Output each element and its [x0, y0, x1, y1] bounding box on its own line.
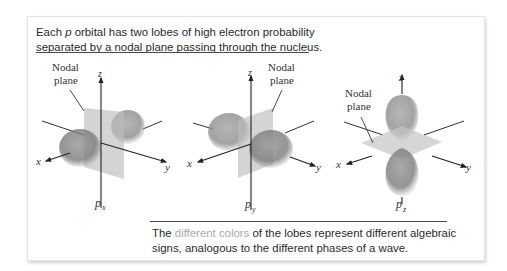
y-axis-back — [285, 121, 314, 133]
z-axis-label: z — [97, 68, 102, 79]
x-axis — [347, 156, 372, 164]
caption-text: of the lobes represent different algebra… — [249, 227, 456, 239]
orbital-label-main: p — [244, 197, 251, 211]
nodal-plane-leader — [361, 117, 373, 143]
bottom-caption: The different colors of the lobes repres… — [152, 226, 456, 255]
x-axis-back — [344, 122, 383, 135]
bottom-caption-line1: The different colors of the lobes repres… — [152, 226, 456, 241]
y-axis-label: y — [315, 161, 321, 173]
nodal-label-l2: plane — [54, 74, 78, 86]
nodal-label-l2: plane — [347, 100, 371, 112]
lobe-front — [59, 129, 101, 167]
px-orbital: Nodal plane z x y p x — [35, 61, 170, 212]
y-axis — [290, 157, 315, 166]
y-axis-back — [143, 121, 162, 129]
caption-text: The — [152, 227, 175, 239]
x-axis-label: x — [35, 155, 41, 167]
orbital-label-sub: z — [402, 205, 407, 214]
orbital-label-sub: y — [251, 205, 256, 214]
orbital-label-main: p — [395, 197, 402, 211]
py-orbital: Nodal plane z x y p y — [186, 61, 321, 214]
x-axis-label: x — [335, 158, 341, 170]
z-axis-label: z — [398, 72, 403, 83]
y-axis-back — [424, 121, 464, 135]
y-axis — [432, 156, 466, 167]
orbital-label-main: p — [94, 196, 101, 210]
nodal-label-l1: Nodal — [345, 87, 372, 99]
bottom-caption-line2: signs, analogous to the different phases… — [152, 241, 456, 256]
pz-orbital: Nodal plane z x y p z — [335, 72, 471, 214]
y-axis-label: y — [164, 161, 170, 173]
lobe-front — [249, 130, 293, 168]
caption-highlight: different colors — [175, 227, 250, 239]
nodal-label-l1: Nodal — [268, 61, 295, 73]
lobe-bottom — [386, 148, 419, 196]
nodal-plane-leader — [70, 90, 84, 111]
orbital-label-sub: x — [101, 203, 106, 212]
nodal-label-l1: Nodal — [52, 61, 79, 73]
nodal-label-l2: plane — [270, 74, 294, 86]
y-axis-label: y — [465, 161, 471, 173]
nodal-plane-leader — [272, 90, 282, 112]
x-axis-label: x — [186, 157, 192, 169]
bottom-caption-rule — [150, 221, 447, 222]
z-axis-label: z — [247, 67, 252, 78]
